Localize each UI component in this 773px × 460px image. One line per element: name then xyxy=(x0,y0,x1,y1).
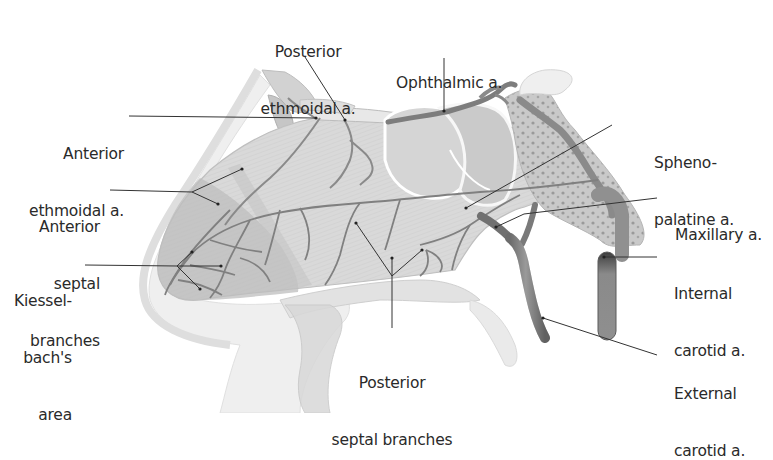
label-line: Posterior xyxy=(322,374,462,393)
label-line: Anterior xyxy=(0,145,124,164)
label-external-carotid-artery: External carotid a. xyxy=(674,347,745,460)
label-line: Ophthalmic a. xyxy=(396,74,502,93)
label-posterior-septal-branches: Posterior septal branches xyxy=(322,336,462,460)
label-line: Posterior xyxy=(238,43,378,62)
label-line: septal branches xyxy=(322,431,462,450)
label-line: External xyxy=(674,385,745,404)
label-ophthalmic-artery: Ophthalmic a. xyxy=(396,36,502,112)
label-line: carotid a. xyxy=(674,442,745,460)
label-line: Spheno- xyxy=(654,154,734,173)
label-line: bach's xyxy=(0,349,72,368)
label-line: Internal xyxy=(674,285,745,304)
label-kiesselbachs-area: Kiessel- bach's area xyxy=(0,254,72,444)
label-line: Maxillary a. xyxy=(675,226,762,245)
label-line: ethmoidal a. xyxy=(238,100,378,119)
label-line: Kiessel- xyxy=(0,292,72,311)
label-line: area xyxy=(0,406,72,425)
label-posterior-ethmoidal-artery: Posterior ethmoidal a. xyxy=(238,5,378,138)
label-line: Anterior xyxy=(0,218,100,237)
